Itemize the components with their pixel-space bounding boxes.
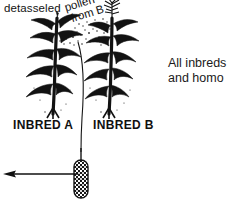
side-note-line2: and homo [168,71,226,86]
side-note-line1: All inbreds [168,56,226,71]
corn-ear [74,148,88,198]
label-inbred-b: INBRED B [93,119,154,131]
tassel-icon [104,0,120,18]
diagram-canvas: detasseled pollen from B INBRED A INBRED… [0,0,231,204]
side-note: All inbreds and homo [168,56,226,86]
label-detasseled: detasseled [4,3,61,15]
harvest-arrow-left [3,171,78,178]
corn-hybridization-illustration [0,0,231,204]
corn-plant-inbred-a [26,11,83,119]
divider-line [78,42,83,152]
label-inbred-a: INBRED A [13,119,73,131]
